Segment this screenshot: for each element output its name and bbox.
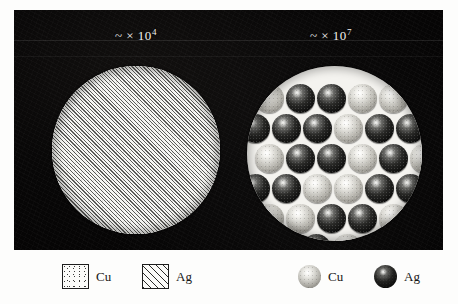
legend-item-cu-atom: Cu (298, 265, 343, 288)
legend-item-ag-atom: Ag (374, 265, 420, 288)
magnification-exponent-left: 4 (152, 27, 157, 37)
magnification-exponent-right: 7 (347, 27, 352, 37)
microstructure-disc-high-mag (247, 66, 422, 241)
microstructure-disc-low-mag (52, 66, 220, 234)
legend-label-cu-phase: Cu (96, 269, 111, 285)
magnification-label-right: ~ × 107 (310, 27, 352, 44)
sphere-texture (298, 265, 321, 288)
atom-cu (410, 204, 422, 233)
atom-ag (271, 234, 300, 241)
legend: Cu Ag Cu Ag (14, 258, 443, 296)
light-sphere-icon (298, 265, 321, 288)
legend-item-cu-phase: Cu (62, 264, 111, 289)
legend-label-ag-phase: Ag (176, 269, 192, 285)
magnification-text-left: ~ × 10 (115, 28, 152, 43)
disc-vignette (52, 66, 220, 234)
sphere-texture (364, 234, 393, 241)
panel-scanline (14, 56, 443, 57)
sphere-texture (271, 234, 300, 241)
hatch-square-icon (142, 264, 169, 289)
sphere-texture (410, 204, 422, 233)
figure-container: ~ × 104 ~ × 107 Cu Ag Cu Ag (0, 0, 458, 304)
panel-scanline (14, 40, 443, 41)
dark-sphere-icon (374, 265, 397, 288)
sphere-texture (374, 265, 397, 288)
micrograph-panel: ~ × 104 ~ × 107 (14, 10, 443, 250)
legend-label-cu-atom: Cu (328, 269, 343, 285)
legend-label-ag-atom: Ag (404, 269, 420, 285)
legend-item-ag-phase: Ag (142, 264, 192, 289)
stipple-square-icon (62, 264, 89, 289)
disc-vignette (247, 66, 422, 241)
magnification-text-right: ~ × 10 (310, 28, 347, 43)
atom-cu (364, 234, 393, 241)
magnification-label-left: ~ × 104 (115, 27, 157, 44)
